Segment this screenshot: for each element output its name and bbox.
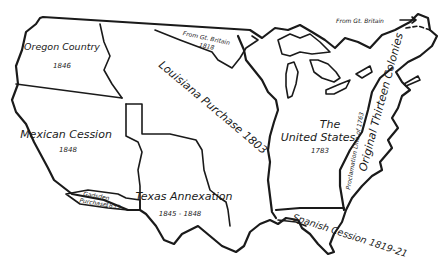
label-oregon: Oregon Country (24, 41, 100, 52)
texas-panhandle-top (126, 104, 230, 226)
territorial-growth-map: Oregon Country 1846 Mexican Cession 1848… (0, 0, 444, 269)
label-oregon-year: 1846 (53, 62, 71, 70)
label-united-states: United States (281, 131, 356, 144)
label-us-year: 1783 (311, 147, 329, 155)
label-louisiana: Louisiana Purchase 1803 (156, 58, 270, 156)
great-lakes (278, 34, 372, 98)
label-spanish-cession: Spanish Cession 1819-21 (291, 211, 409, 259)
label-britain-ne: From Gt. Britain (336, 17, 384, 24)
label-colonies: Original Thirteen Colonies (356, 31, 406, 173)
label-the: The (320, 118, 341, 131)
maine-boundary (406, 26, 430, 30)
label-mexican-year: 1848 (59, 146, 77, 154)
label-texas: Texas Annexation (135, 190, 232, 203)
oregon-south-border (16, 84, 122, 98)
label-texas-year: 1845 - 1848 (159, 210, 202, 218)
long-island (404, 76, 420, 86)
spanish-cession-north-border (276, 208, 344, 210)
oregon-east-border (100, 24, 122, 98)
label-gadsden-year: 1853 (105, 201, 121, 211)
label-mexican-cession: Mexican Cession (20, 128, 112, 141)
